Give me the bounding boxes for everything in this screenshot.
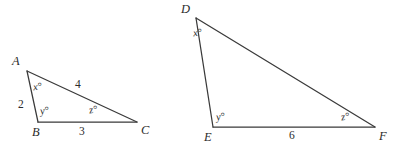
angle-label-y-right: y° xyxy=(215,111,225,123)
angle-label-x-right: x° xyxy=(192,27,202,39)
vertex-label-b: B xyxy=(32,126,40,139)
angle-label-y-left: y° xyxy=(39,105,49,117)
vertex-label-e: E xyxy=(204,131,212,144)
side-label-bc: 3 xyxy=(79,126,85,138)
side-label-ab: 2 xyxy=(18,99,24,111)
segment-ab xyxy=(27,71,38,122)
vertex-label-a: A xyxy=(12,55,20,68)
side-label-ac: 4 xyxy=(75,79,81,91)
angle-label-z-right: z° xyxy=(340,111,350,123)
angle-label-z-left: z° xyxy=(88,104,98,116)
vertex-label-d: D xyxy=(181,3,190,16)
side-label-ef: 6 xyxy=(289,130,295,142)
angle-label-x-left: x° xyxy=(32,81,42,93)
vertex-label-f: F xyxy=(379,130,387,143)
figure-canvas xyxy=(0,0,397,155)
vertex-label-c: C xyxy=(141,124,149,137)
geometry-figure: A B C x° y° z° 2 4 3 D E F x° y° z° 6 xyxy=(0,0,397,155)
